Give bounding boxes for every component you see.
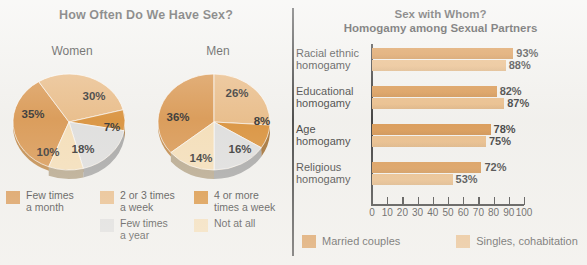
- bar-value-2-1: 75%: [489, 135, 511, 147]
- legend-swatch-not-at-all: [194, 219, 208, 232]
- bar-value-3-0: 72%: [484, 161, 506, 173]
- bar-3-1: [372, 174, 453, 185]
- pie-women-value-1: 30%: [82, 90, 105, 102]
- bar-0-0: [372, 48, 513, 59]
- x-tick-label-10: 10: [382, 207, 393, 218]
- x-tick-label-90: 90: [503, 207, 514, 218]
- x-tick-0: [372, 197, 373, 205]
- x-tick-label-40: 40: [427, 207, 438, 218]
- pie-men-value-1: 26%: [225, 87, 248, 99]
- pie-women-value-2: 7%: [104, 121, 121, 133]
- x-tick-label-80: 80: [488, 207, 499, 218]
- x-tick-40: [433, 197, 434, 205]
- bar-value-1-1: 87%: [507, 97, 529, 109]
- bar-1-1: [372, 98, 504, 109]
- right-title-line2: Homogamy among Sexual Partners: [294, 21, 587, 35]
- x-tick-20: [402, 197, 403, 205]
- pie-women-value-3: 18%: [71, 143, 94, 155]
- bar-plot-area: 0102030405060708090100 Racial ethnic hom…: [294, 44, 587, 209]
- bar-3-0: [372, 162, 481, 173]
- legend-label-four-more-week: 4 or more times a week: [214, 190, 275, 213]
- bar-value-0-0: 93%: [516, 47, 538, 59]
- pie-men-value-0: 36%: [166, 111, 189, 123]
- bar-2-0: [372, 124, 491, 135]
- legend-item-married-couples: Married couples: [302, 234, 400, 248]
- category-label-3: Religious homogamy: [296, 161, 384, 185]
- legend-item-few-times-month: Few times a month: [6, 190, 74, 213]
- legend-label-not-at-all: Not at all: [214, 218, 255, 230]
- legend-item-two-three-week: 2 or 3 times a week: [100, 190, 175, 213]
- bar-2-1: [372, 136, 486, 147]
- right-title-line1: Sex with Whom?: [294, 7, 587, 21]
- x-tick-80: [494, 197, 495, 205]
- pie-women-value-4: 10%: [36, 146, 59, 158]
- pie-chart-men: 36% 26% 8% 16% 14%: [152, 64, 282, 182]
- legend-swatch-few-times-month: [6, 191, 20, 204]
- pie-men-value-3: 16%: [228, 143, 251, 155]
- pie-men-value-4: 14%: [189, 152, 212, 164]
- legend-label-few-times-month: Few times a month: [26, 190, 74, 213]
- right-panel-title: Sex with Whom? Homogamy among Sexual Par…: [294, 7, 587, 35]
- x-tick-30: [418, 197, 419, 205]
- legend-swatch-four-more-week: [194, 191, 208, 204]
- legend-swatch-few-times-year: [100, 219, 114, 232]
- x-tick-label-70: 70: [473, 207, 484, 218]
- x-tick-label-50: 50: [442, 207, 453, 218]
- pie-women-value-0: 35%: [21, 108, 44, 120]
- legend-swatch-singles-cohabitation: [456, 235, 470, 248]
- x-tick-50: [448, 197, 449, 205]
- legend-label-singles-cohabitation: Singles, cohabitation: [476, 235, 578, 247]
- bar-1-0: [372, 86, 497, 97]
- legend-swatch-married-couples: [302, 235, 316, 248]
- bar-value-2-0: 78%: [494, 123, 516, 135]
- legend-label-married-couples: Married couples: [322, 235, 400, 247]
- legend-label-few-times-year: Few times a year: [120, 218, 168, 241]
- pie-men-value-2: 8%: [254, 115, 271, 127]
- legend-label-two-three-week: 2 or 3 times a week: [120, 190, 175, 213]
- x-tick-70: [478, 197, 479, 205]
- category-label-0: Racial ethnic homogamy: [296, 47, 384, 71]
- legend-item-singles-cohabitation: Singles, cohabitation: [456, 234, 578, 248]
- x-tick-100: [524, 197, 525, 205]
- category-label-1: Educational homogamy: [296, 85, 384, 109]
- bar-chart-panel: Sex with Whom? Homogamy among Sexual Par…: [294, 0, 587, 265]
- x-tick-label-100: 100: [516, 207, 533, 218]
- bar-value-1-0: 82%: [500, 85, 522, 97]
- pie-charts-panel: How Often Do We Have Sex? Women Men 35% …: [0, 0, 292, 265]
- x-tick-90: [509, 197, 510, 205]
- legend-item-four-more-week: 4 or more times a week: [194, 190, 275, 213]
- pie-title-women: Women: [12, 44, 132, 58]
- bar-legend: Married couples Singles, cohabitation: [302, 234, 587, 248]
- left-panel-title: How Often Do We Have Sex?: [0, 8, 292, 22]
- x-tick-60: [463, 197, 464, 205]
- x-tick-label-60: 60: [458, 207, 469, 218]
- legend-swatch-two-three-week: [100, 191, 114, 204]
- x-tick-label-30: 30: [412, 207, 423, 218]
- bar-value-0-1: 88%: [509, 59, 531, 71]
- pie-chart-women: 35% 30% 7% 18% 10%: [7, 64, 137, 182]
- x-tick-label-0: 0: [369, 207, 375, 218]
- x-tick-10: [387, 197, 388, 205]
- legend-item-not-at-all: Not at all: [194, 218, 255, 232]
- x-tick-label-20: 20: [397, 207, 408, 218]
- bar-0-1: [372, 60, 506, 71]
- pie-title-men: Men: [158, 44, 278, 58]
- legend-item-few-times-year: Few times a year: [100, 218, 168, 241]
- bar-value-3-1: 53%: [456, 173, 478, 185]
- figure-root: How Often Do We Have Sex? Women Men 35% …: [0, 0, 587, 265]
- category-label-2: Age homogamy: [296, 123, 384, 147]
